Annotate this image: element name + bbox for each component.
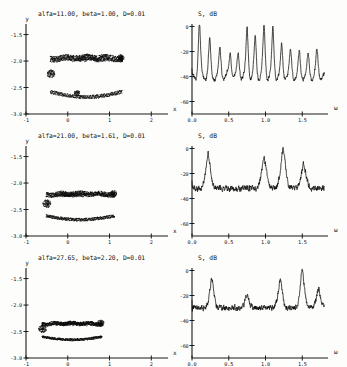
phase-ytick-label: -2.5 xyxy=(10,207,22,213)
phase-ytick-label: -1.5 xyxy=(10,276,22,282)
spectrum-ytick-label: -20 xyxy=(180,293,189,299)
attractor-trajectory-row-2 xyxy=(42,190,117,221)
phase-ytick-label: -2.0 xyxy=(10,58,22,64)
spectrum-trace-row-3 xyxy=(192,269,324,311)
spectrum-axes xyxy=(192,146,328,236)
spectrum-xtick-label: 1.5 xyxy=(298,361,307,367)
phase-title-row-1: alfa=11.00, beta=1.00, D=0.01 xyxy=(38,10,145,17)
spectrum-panel-row-3: S, dB0-20-40-600.00.51.01.5ω xyxy=(178,244,347,366)
phase-y-axis-label: y xyxy=(25,15,29,23)
phase-portrait-row-1: alfa=11.00, beta=1.00, D=0.01-1.5-2.0-2.… xyxy=(0,0,178,122)
phase-x-axis-label: x xyxy=(173,105,177,112)
phase-portrait-row-2: alfa=21.00, beta=1.61, D=0.01-1.5-2.0-2.… xyxy=(0,122,178,244)
spectrum-ytick-label: 0 xyxy=(186,146,189,152)
spectrum-axes xyxy=(192,24,328,114)
phase-ytick-label: -3.0 xyxy=(10,355,22,361)
spectrum-ytick-label: -60 xyxy=(180,221,189,227)
spectrum-ytick-label: -40 xyxy=(180,318,189,324)
attractor-trajectory-row-3 xyxy=(38,319,104,341)
phase-x-axis-label: x xyxy=(173,227,177,234)
phase-xtick-label: 0 xyxy=(66,361,69,367)
attractor-trajectory-row-1 xyxy=(47,53,125,99)
spectrum-xtick-label: 0.0 xyxy=(188,361,197,367)
figure-row-3: alfa=27.65, beta=2.20, D=0.01-1.5-2.0-2.… xyxy=(0,244,347,366)
spectrum-ytick-label: -20 xyxy=(180,49,189,55)
spectrum-axis-title-row-3: S, dB xyxy=(198,254,217,261)
phase-xtick-label: 2 xyxy=(150,361,153,367)
phase-ytick-label: -1.5 xyxy=(10,154,22,160)
spectrum-xtick-label: 0.5 xyxy=(224,361,233,367)
power-spectrum-row-2: S, dB0-20-40-600.00.51.01.5ω xyxy=(178,122,347,244)
spectrum-xtick-label: 1.0 xyxy=(261,361,270,367)
spectrum-trace-row-1 xyxy=(192,25,324,81)
figure-row-1: alfa=11.00, beta=1.00, D=0.01-1.5-2.0-2.… xyxy=(0,0,347,122)
phase-axes xyxy=(26,24,168,114)
figure-panel-grid: alfa=11.00, beta=1.00, D=0.01-1.5-2.0-2.… xyxy=(0,0,347,367)
spectrum-ytick-label: 0 xyxy=(186,268,189,274)
spectrum-ytick-label: -40 xyxy=(180,196,189,202)
phase-ytick-label: -2.5 xyxy=(10,329,22,335)
spectrum-ytick-label: -60 xyxy=(180,343,189,349)
spectrum-x-axis-label: ω xyxy=(334,348,338,355)
power-spectrum-row-3: S, dB0-20-40-600.00.51.01.5ω xyxy=(178,244,347,366)
phase-ytick-label: -2.5 xyxy=(10,85,22,91)
spectrum-ytick-label: -40 xyxy=(180,74,189,80)
spectrum-axis-title-row-1: S, dB xyxy=(198,10,217,17)
power-spectrum-row-1: S, dB0-20-40-600.00.51.01.5ω xyxy=(178,0,347,122)
spectrum-ytick-label: -20 xyxy=(180,171,189,177)
figure-row-2: alfa=21.00, beta=1.61, D=0.01-1.5-2.0-2.… xyxy=(0,122,347,244)
spectrum-axis-title-row-2: S, dB xyxy=(198,132,217,139)
spectrum-panel-row-1: S, dB0-20-40-600.00.51.01.5ω xyxy=(178,0,347,122)
phase-panel-row-3: alfa=27.65, beta=2.20, D=0.01-1.5-2.0-2.… xyxy=(0,244,178,366)
spectrum-ytick-label: -60 xyxy=(180,99,189,105)
phase-panel-row-1: alfa=11.00, beta=1.00, D=0.01-1.5-2.0-2.… xyxy=(0,0,178,122)
spectrum-x-axis-label: ω xyxy=(334,226,338,233)
phase-xtick-label: 1 xyxy=(108,361,111,367)
phase-axes xyxy=(26,268,168,358)
phase-ytick-label: -2.0 xyxy=(10,180,22,186)
spectrum-x-axis-label: ω xyxy=(334,104,338,111)
phase-ytick-label: -3.0 xyxy=(10,233,22,239)
phase-title-row-2: alfa=21.00, beta=1.61, D=0.01 xyxy=(38,132,145,139)
phase-portrait-row-3: alfa=27.65, beta=2.20, D=0.01-1.5-2.0-2.… xyxy=(0,244,178,366)
phase-panel-row-2: alfa=21.00, beta=1.61, D=0.01-1.5-2.0-2.… xyxy=(0,122,178,244)
phase-title-row-3: alfa=27.65, beta=2.20, D=0.01 xyxy=(38,254,145,261)
phase-x-axis-label: x xyxy=(173,349,177,356)
phase-y-axis-label: y xyxy=(25,259,29,267)
spectrum-ytick-label: 0 xyxy=(186,24,189,30)
phase-ytick-label: -2.0 xyxy=(10,302,22,308)
spectrum-trace-row-2 xyxy=(192,147,324,192)
phase-axes xyxy=(26,146,168,236)
phase-xtick-label: -1 xyxy=(23,361,29,367)
spectrum-panel-row-2: S, dB0-20-40-600.00.51.01.5ω xyxy=(178,122,347,244)
phase-ytick-label: -3.0 xyxy=(10,111,22,117)
phase-ytick-label: -1.5 xyxy=(10,32,22,38)
phase-y-axis-label: y xyxy=(25,137,29,145)
